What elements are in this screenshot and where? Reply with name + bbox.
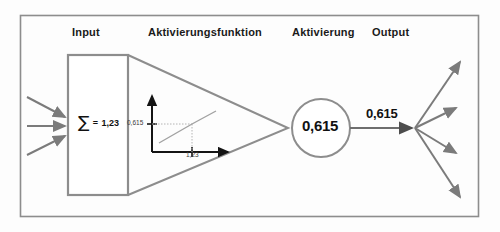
input-arrow-1 <box>27 97 65 117</box>
equals-sign: = <box>93 118 98 128</box>
header-activation-function: Aktivierungsfunktion <box>148 26 262 38</box>
input-sum-value: 1,23 <box>101 118 119 128</box>
mini-chart-curve <box>159 111 216 143</box>
output-arrow-4 <box>415 128 460 197</box>
output-value-label: 0,615 <box>366 106 398 121</box>
mini-chart-x-tick-label: 1,23 <box>186 151 199 158</box>
activation-function-mini-chart <box>147 96 228 157</box>
diagram-canvas: Input Aktivierungsfunktion Aktivierung O… <box>0 0 500 232</box>
output-arrow-3 <box>415 128 456 153</box>
header-input: Input <box>72 26 100 38</box>
input-arrow-3 <box>27 136 65 155</box>
input-sum-label: ∑ = 1,23 <box>78 112 119 132</box>
mini-chart-y-tick-label: 0,615 <box>127 119 143 126</box>
sigma-icon: ∑ <box>78 112 89 132</box>
header-output: Output <box>372 26 409 38</box>
header-activation: Aktivierung <box>292 26 355 38</box>
neuron-activation-value: 0,615 <box>302 117 338 134</box>
